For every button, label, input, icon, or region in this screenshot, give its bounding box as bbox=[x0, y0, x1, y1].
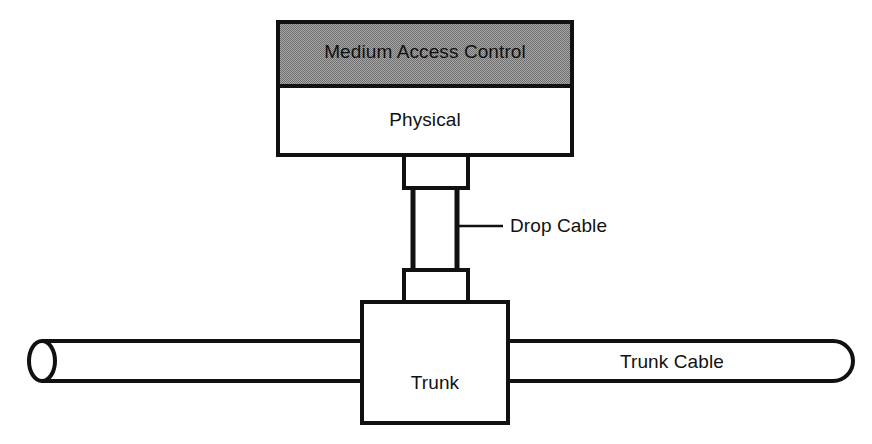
tcu-label-line-1: Trunk bbox=[362, 371, 508, 394]
trunk-coupling-unit-label: Trunk Coupling Unit bbox=[362, 325, 508, 444]
physical-label: Physical bbox=[278, 108, 572, 131]
lower-connector-box bbox=[404, 270, 468, 302]
upper-connector-box bbox=[404, 155, 468, 188]
trunk-cable-left-cap bbox=[29, 341, 55, 381]
diagram-canvas: Medium Access Control Physical Trunk Cou… bbox=[0, 0, 872, 444]
trunk-cable-label: Trunk Cable bbox=[620, 350, 800, 373]
drop-cable-label: Drop Cable bbox=[510, 214, 690, 237]
medium-access-control-label: Medium Access Control bbox=[278, 40, 572, 63]
drop-cable-graphic bbox=[413, 186, 503, 272]
